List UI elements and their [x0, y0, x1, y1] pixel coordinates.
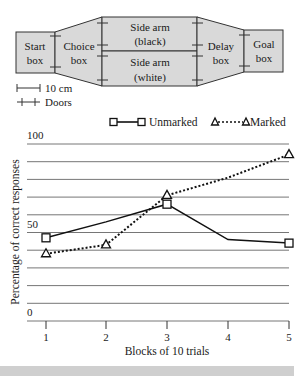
svg-text:(white): (white): [134, 71, 166, 84]
legend-marked-label: Marked: [250, 116, 286, 128]
side-arm-black-label-1: Side arm: [130, 21, 170, 33]
x-tick-2: 2: [103, 331, 109, 343]
svg-text:Doors: Doors: [45, 96, 72, 108]
figure: Start box Choice box Side arm (black) Si…: [0, 0, 306, 380]
start-box-label-2: box: [27, 54, 44, 66]
triangle-marker-icon: [163, 190, 172, 198]
goal-box-label-1: Goal: [253, 38, 274, 50]
choice-box-label-2: box: [71, 54, 88, 66]
svg-text:Side arm: Side arm: [130, 21, 170, 33]
square-marker-icon: [285, 239, 293, 247]
y-axis-label: Percentage of correct responses: [9, 159, 22, 305]
y-tick-100: 100: [27, 129, 44, 141]
side-arm-white-label-1: Side arm: [130, 56, 170, 68]
svg-text:box: box: [71, 54, 88, 66]
doors-label: Doors: [45, 96, 72, 108]
svg-text:(black): (black): [134, 35, 165, 48]
scale-label: 10 cm: [45, 82, 73, 94]
x-tick-1: 1: [43, 331, 49, 343]
square-marker-icon: [42, 234, 50, 242]
bottom-divider-band: [0, 366, 294, 376]
square-marker-icon: [110, 119, 117, 126]
plot-series: [42, 150, 294, 257]
svg-text:5: 5: [286, 331, 292, 343]
triangle-marker-icon: [243, 118, 250, 125]
y-tick-labels: 100 50 0: [27, 129, 44, 318]
triangle-marker-icon: [212, 118, 219, 125]
svg-text:10 cm: 10 cm: [45, 82, 73, 94]
svg-text:Marked: Marked: [250, 116, 286, 128]
choice-box-label-1: Choice: [63, 40, 94, 52]
delay-box-label-2: box: [213, 54, 230, 66]
x-tick-5: 5: [286, 331, 292, 343]
svg-text:2: 2: [103, 331, 109, 343]
svg-text:Start: Start: [25, 40, 46, 52]
goal-box-label-2: box: [256, 52, 273, 64]
svg-text:3: 3: [164, 331, 170, 343]
square-marker-icon: [138, 119, 145, 126]
y-tick-0: 0: [27, 306, 33, 318]
svg-text:4: 4: [225, 331, 231, 343]
diagram-key: [17, 84, 40, 106]
series-line: [46, 204, 289, 243]
svg-text:1: 1: [43, 331, 49, 343]
svg-text:0: 0: [27, 306, 33, 318]
svg-text:Goal: Goal: [253, 38, 274, 50]
x-tick-3: 3: [164, 331, 170, 343]
svg-text:Blocks of 10 trials: Blocks of 10 trials: [125, 345, 210, 357]
svg-text:box: box: [256, 52, 273, 64]
square-marker-icon: [163, 200, 171, 208]
x-tick-labels: 1 2 3 4 5: [43, 331, 292, 343]
x-axis-label: Blocks of 10 trials: [125, 345, 210, 357]
svg-text:Percentage of correct response: Percentage of correct responses: [9, 159, 22, 305]
x-tick-4: 4: [225, 331, 231, 343]
svg-text:box: box: [213, 54, 230, 66]
side-arm-black-label-2: (black): [134, 35, 165, 48]
start-box-shape: [16, 32, 55, 73]
y-tick-50: 50: [27, 218, 39, 230]
start-box-label-1: Start: [25, 40, 46, 52]
legend-unmarked-label: Unmarked: [149, 116, 198, 128]
svg-text:Delay: Delay: [208, 40, 235, 52]
x-ticks: [46, 321, 289, 329]
svg-text:Choice: Choice: [63, 40, 94, 52]
svg-text:box: box: [27, 54, 44, 66]
svg-text:Unmarked: Unmarked: [149, 116, 198, 128]
side-arm-white-label-2: (white): [134, 71, 166, 84]
delay-box-label-1: Delay: [208, 40, 235, 52]
series-unmarked: [42, 200, 293, 247]
svg-text:Side arm: Side arm: [130, 56, 170, 68]
svg-text:100: 100: [27, 129, 44, 141]
triangle-marker-icon: [285, 150, 294, 158]
svg-text:50: 50: [27, 218, 39, 230]
legend: Unmarked Marked: [110, 116, 286, 128]
